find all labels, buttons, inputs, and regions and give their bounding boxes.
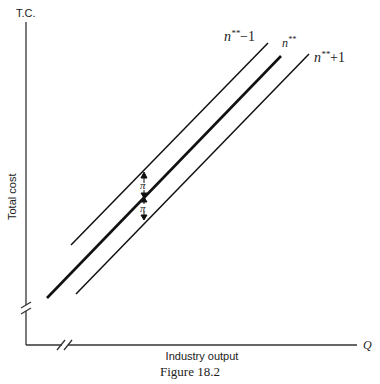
x-axis: [26, 340, 357, 350]
line-n-star-star: [47, 56, 281, 298]
x-axis-label: Industry output: [166, 350, 239, 362]
line-n-star-star-minus-1: [71, 43, 268, 245]
arrow-down-icon: [141, 215, 147, 220]
total-cost-diagram: T.C. Total cost Industry output Q n**−1 …: [0, 0, 380, 384]
figure-caption: Figure 18.2: [0, 364, 380, 380]
line-n-star-star-plus-1: [76, 54, 309, 294]
pi-label-upper: π: [140, 179, 146, 191]
label-n-star-star: n**: [282, 35, 296, 50]
label-n-star-star-minus-1: n**−1: [224, 28, 255, 44]
label-n-star-star-plus-1: n**+1: [314, 49, 345, 65]
pi-label-lower: π: [140, 202, 146, 214]
y-axis: [21, 22, 31, 345]
x-axis-end-label: Q: [363, 338, 372, 352]
y-axis-top-label: T.C.: [16, 7, 36, 19]
y-axis-side-label: Total cost: [6, 174, 18, 220]
